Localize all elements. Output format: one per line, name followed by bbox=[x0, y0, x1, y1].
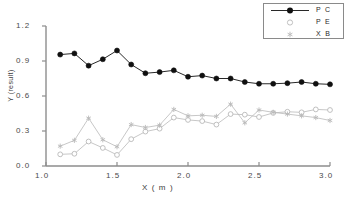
legend-swatch-pc bbox=[269, 5, 311, 16]
chart-legend: P C P E X B bbox=[263, 3, 344, 39]
x-tick-label-3: 2.5 bbox=[248, 171, 262, 180]
legend-label-2: X B bbox=[316, 30, 331, 37]
x-tick-label-0: 1.0 bbox=[35, 171, 49, 180]
legend-label-1: P E bbox=[316, 18, 331, 25]
y-tick-label-1: 0.3 bbox=[16, 126, 30, 135]
legend-swatch-pe bbox=[269, 17, 311, 28]
y-tick-label-3: 0.9 bbox=[16, 56, 30, 65]
x-axis-title: X ( m ) bbox=[142, 183, 174, 192]
x-tick-label-4: 3.0 bbox=[319, 171, 333, 180]
y-tick-label-2: 0.6 bbox=[16, 91, 30, 100]
y-axis-title: Y (result) bbox=[7, 56, 14, 116]
legend-item-2: X B bbox=[264, 29, 343, 40]
legend-item-0: P C bbox=[264, 5, 343, 16]
chart-figure: 0.0 0.3 0.6 0.9 1.2 1.0 1.5 2.0 2.5 3.0 … bbox=[0, 0, 351, 198]
legend-item-1: P E bbox=[264, 17, 343, 28]
y-tick-label-4: 1.2 bbox=[16, 21, 30, 30]
y-tick-label-0: 0.0 bbox=[16, 161, 30, 170]
legend-label-0: P C bbox=[316, 6, 331, 13]
x-tick-label-1: 1.5 bbox=[106, 171, 120, 180]
x-tick-label-2: 2.0 bbox=[177, 171, 191, 180]
legend-swatch-xb bbox=[269, 29, 311, 40]
